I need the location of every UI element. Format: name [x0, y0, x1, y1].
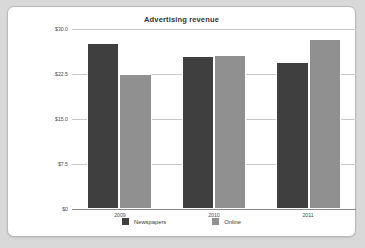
legend-label: Newspapers [134, 219, 166, 225]
bar-online-2011[interactable] [309, 39, 341, 209]
chart-title: Advertising revenue [8, 15, 355, 24]
bar-newspapers-2011[interactable] [276, 62, 308, 209]
y-axis: $30.0 $22.5 $15.0 $7.5 $0 [30, 29, 68, 209]
legend-item-online[interactable]: Online [212, 218, 241, 225]
legend-swatch-icon [122, 218, 129, 225]
legend-item-newspapers[interactable]: Newspapers [122, 218, 166, 225]
legend-label: Online [224, 219, 241, 225]
x-axis-line [72, 209, 356, 210]
y-tick-label: $0 [34, 206, 68, 212]
legend-swatch-icon [212, 218, 219, 225]
y-tick-label: $22.5 [34, 71, 68, 77]
bar-group [261, 29, 356, 209]
bar-newspapers-2010[interactable] [182, 56, 214, 209]
y-tick-label: $7.5 [34, 161, 68, 167]
chart-panel: Advertising revenue $30.0 $22.5 $15.0 $7… [7, 6, 356, 237]
bar-newspapers-2009[interactable] [87, 43, 119, 209]
plot-area: 2009 2010 2011 [72, 29, 356, 209]
bar-online-2009[interactable] [119, 74, 151, 209]
bar-group [167, 29, 262, 209]
bar-group [72, 29, 167, 209]
chart-legend: Newspapers Online [8, 218, 355, 225]
y-tick-label: $30.0 [34, 26, 68, 32]
bars-layer [72, 29, 356, 209]
y-tick-label: $15.0 [34, 116, 68, 122]
bar-online-2010[interactable] [214, 55, 246, 209]
